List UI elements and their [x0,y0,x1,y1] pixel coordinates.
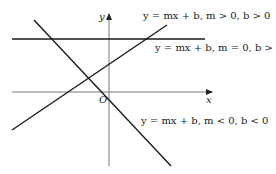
label-positive-slope: y = mx + b, m > 0, b > 0 [143,10,270,21]
y-axis-label: y [99,11,105,22]
label-zero-slope: y = mx + b, m = 0, b > 0 [155,42,276,53]
line-negative-slope [34,20,171,166]
x-axis-label: x [206,94,212,105]
origin-label: O [99,94,107,105]
diagram-canvas [0,0,276,174]
label-negative-slope: y = mx + b, m < 0, b < 0 [141,115,268,126]
linear-equation-diagram: y x O y = mx + b, m > 0, b > 0 y = mx + … [0,0,276,174]
